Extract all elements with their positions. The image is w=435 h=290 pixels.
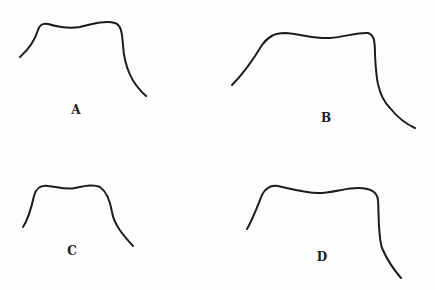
label-a: A [71,103,80,117]
label-c: C [67,244,77,258]
curve-a [20,22,146,96]
curve-d [247,186,401,278]
label-b: B [321,111,331,125]
curve-c [23,185,133,246]
label-d: D [317,250,327,264]
figure-canvas: A B C D [0,0,435,290]
curves-svg [0,0,435,290]
